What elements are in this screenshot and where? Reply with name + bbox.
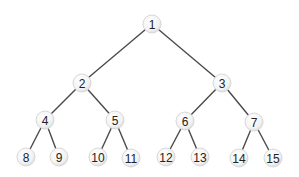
node-label: 2 [79,77,86,91]
node-label: 4 [42,114,49,128]
edge-1-3 [152,24,222,83]
node-label: 1 [149,18,156,32]
tree-edges [26,24,273,158]
node-label: 12 [159,151,173,165]
tree-node-1: 1 [143,15,161,33]
tree-node-2: 2 [73,74,91,92]
tree-node-10: 10 [89,148,107,166]
node-label: 14 [232,152,246,166]
binary-tree-diagram: 123456789101112131415 [0,0,299,177]
node-label: 6 [182,115,189,129]
edge-1-2 [82,24,152,83]
tree-node-14: 14 [230,149,248,167]
tree-node-7: 7 [245,113,263,131]
tree-node-12: 12 [157,148,175,166]
node-label: 13 [193,151,207,165]
tree-node-8: 8 [17,148,35,166]
node-label: 10 [91,151,105,165]
tree-node-6: 6 [176,112,194,130]
tree-node-5: 5 [106,111,124,129]
node-label: 8 [23,151,30,165]
tree-node-11: 11 [122,149,140,167]
tree-node-9: 9 [50,148,68,166]
node-label: 7 [251,116,258,130]
node-label: 5 [112,114,119,128]
tree-nodes: 123456789101112131415 [17,15,282,167]
node-label: 11 [125,152,138,166]
tree-node-3: 3 [213,74,231,92]
tree-node-15: 15 [264,149,282,167]
tree-node-4: 4 [36,111,54,129]
tree-node-13: 13 [191,148,209,166]
node-label: 3 [219,77,226,91]
node-label: 15 [266,152,280,166]
node-label: 9 [56,151,63,165]
